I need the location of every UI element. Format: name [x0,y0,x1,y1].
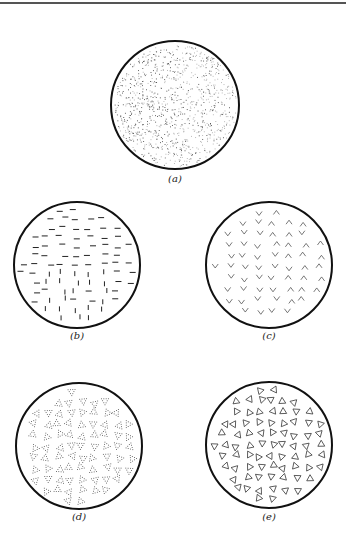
caption-c: (c) [262,330,275,341]
caption-d: (d) [72,511,86,522]
caption-a: (a) [168,173,182,184]
circle-outline-d [16,383,142,509]
panel-d [16,383,142,509]
panel-b [14,202,140,328]
panel-a [111,41,239,169]
caption-b: (b) [70,330,84,341]
figure-canvas [0,0,346,535]
panel-e [206,382,332,508]
panel-c [206,202,332,328]
caption-e: (e) [262,511,276,522]
